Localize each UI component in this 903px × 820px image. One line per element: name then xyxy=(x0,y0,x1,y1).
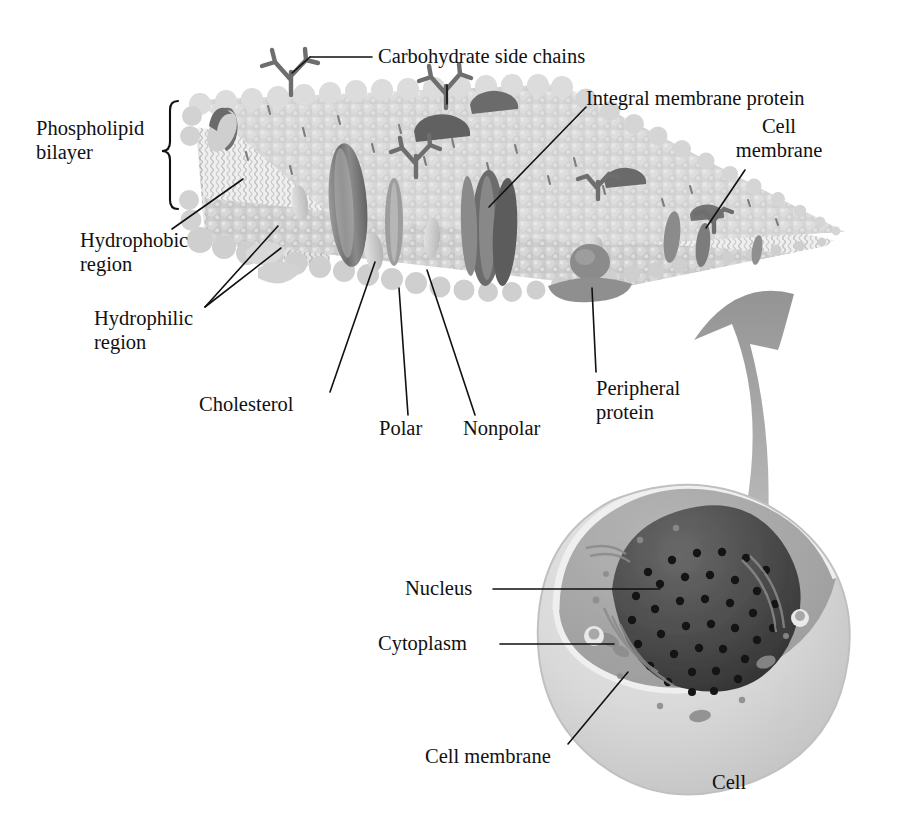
label-hydrophilic-region: Hydrophilic region xyxy=(94,306,193,354)
label-polar: Polar xyxy=(379,416,422,440)
label-cytoplasm: Cytoplasm xyxy=(378,631,467,655)
label-layer: Carbohydrate side chains Integral membra… xyxy=(0,0,903,820)
label-nucleus: Nucleus xyxy=(405,576,472,600)
figure-canvas: Carbohydrate side chains Integral membra… xyxy=(0,0,903,820)
label-cell: Cell xyxy=(712,770,746,794)
label-cell-membrane-top: Cell membrane xyxy=(716,114,842,162)
label-hydrophobic-region: Hydrophobic region xyxy=(80,228,188,276)
label-cholesterol: Cholesterol xyxy=(199,392,294,416)
label-carbohydrate-side-chains: Carbohydrate side chains xyxy=(378,44,585,68)
label-phospholipid-bilayer: Phospholipid bilayer xyxy=(0,116,184,164)
label-peripheral-protein: Peripheral protein xyxy=(596,376,680,424)
label-integral-membrane-protein: Integral membrane protein xyxy=(586,86,805,110)
label-nonpolar: Nonpolar xyxy=(463,416,540,440)
label-cell-membrane-bottom: Cell membrane xyxy=(425,744,551,768)
